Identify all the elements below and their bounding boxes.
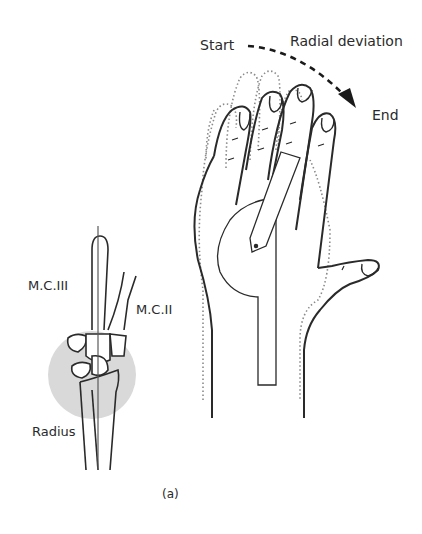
start-label: Start (200, 38, 234, 52)
mc3-label: M.C.III (28, 279, 68, 292)
goniometer (218, 152, 300, 385)
radial-deviation-arrow (248, 46, 356, 108)
wrist-diagram (0, 0, 422, 534)
motion-label: Radial deviation (290, 34, 403, 48)
radius-label: Radius (32, 425, 76, 438)
figure-caption: (a) (162, 488, 179, 500)
end-label: End (372, 108, 399, 122)
mc2-label: M.C.II (136, 303, 172, 316)
